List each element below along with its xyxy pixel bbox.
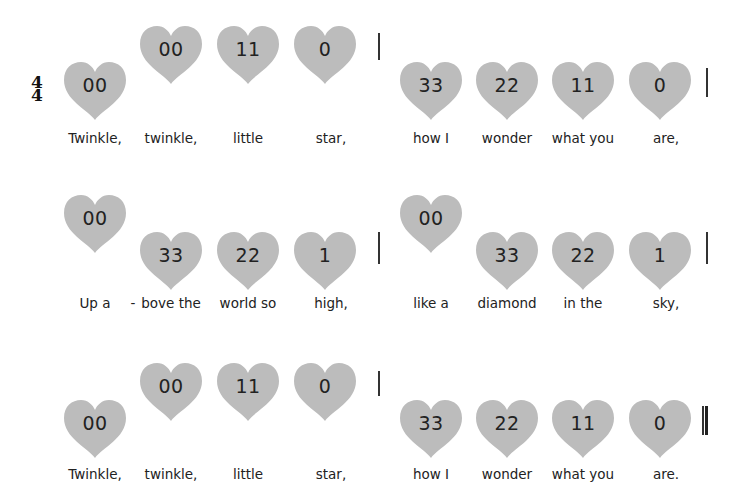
barline: [378, 232, 380, 264]
heart-note: 0: [627, 60, 693, 122]
note-number: 0: [627, 74, 693, 96]
lyric-word: twinkle,: [145, 466, 198, 482]
lyric-word: in the: [564, 295, 603, 311]
lyric-word: Twinkle,: [68, 130, 122, 146]
note-number: 00: [138, 38, 204, 60]
note-number: 00: [62, 412, 128, 434]
barline: [706, 68, 708, 97]
heart-note: 0: [627, 398, 693, 460]
lyric-word: sky,: [653, 295, 680, 311]
note-number: 33: [398, 412, 464, 434]
final-barline-thick: [705, 406, 708, 435]
note-number: 0: [292, 375, 358, 397]
cut-off-text-line: [0, 0, 733, 6]
note-number: 11: [550, 74, 616, 96]
note-number: 22: [550, 244, 616, 266]
heart-note: 33: [474, 230, 540, 292]
lyric-word: how I: [413, 466, 449, 482]
heart-note: 22: [215, 230, 281, 292]
lyric-word: how I: [413, 130, 449, 146]
note-number: 00: [138, 375, 204, 397]
lyric-word: are.: [653, 466, 679, 482]
final-barline-thin: [702, 406, 704, 435]
heart-note: 00: [62, 193, 128, 255]
heart-note: 33: [138, 230, 204, 292]
note-number: 0: [627, 412, 693, 434]
note-number: 22: [474, 74, 540, 96]
note-number: 33: [474, 244, 540, 266]
heart-note: 1: [292, 230, 358, 292]
heart-note: 00: [138, 361, 204, 423]
note-number: 22: [474, 412, 540, 434]
heart-note: 33: [398, 60, 464, 122]
lyric-word: star,: [316, 466, 346, 482]
time-signature: 4 4: [29, 76, 45, 102]
heart-note: 22: [550, 230, 616, 292]
barline: [706, 232, 708, 264]
heart-note: 22: [474, 60, 540, 122]
heart-note: 11: [215, 361, 281, 423]
note-number: 1: [292, 244, 358, 266]
heart-note: 11: [550, 398, 616, 460]
heart-note: 0: [292, 24, 358, 86]
note-number: 11: [215, 38, 281, 60]
note-number: 0: [292, 38, 358, 60]
note-number: 33: [398, 74, 464, 96]
lyric-word: diamond: [477, 295, 536, 311]
note-number: 33: [138, 244, 204, 266]
lyric-word: little: [233, 466, 263, 482]
lyric-word: what you: [552, 466, 614, 482]
lyric-word: bove the: [141, 295, 201, 311]
lyric-word: are,: [653, 130, 679, 146]
lyric-word: what you: [552, 130, 614, 146]
heart-note: 11: [550, 60, 616, 122]
time-signature-bottom: 4: [29, 89, 45, 102]
heart-note: 1: [627, 230, 693, 292]
lyric-word: star,: [316, 130, 346, 146]
lyric-word: like a: [413, 295, 449, 311]
lyric-word: world so: [220, 295, 277, 311]
heart-note: 00: [62, 60, 128, 122]
lyric-word: wonder: [482, 130, 532, 146]
heart-note: 0: [292, 361, 358, 423]
heart-note: 00: [62, 398, 128, 460]
lyric-word: twinkle,: [145, 130, 198, 146]
heart-note: 00: [138, 24, 204, 86]
heart-note: 33: [398, 398, 464, 460]
note-number: 11: [215, 375, 281, 397]
lyric-word: high,: [314, 295, 348, 311]
lyric-word: Twinkle,: [68, 466, 122, 482]
lyric-word: little: [233, 130, 263, 146]
note-number: 1: [627, 244, 693, 266]
lyric-hyphen: -: [131, 295, 136, 311]
heart-note: 22: [474, 398, 540, 460]
heart-note: 11: [215, 24, 281, 86]
lyric-word: Up a: [79, 295, 110, 311]
note-number: 00: [398, 207, 464, 229]
barline: [378, 371, 380, 396]
heart-note: 00: [398, 193, 464, 255]
note-number: 22: [215, 244, 281, 266]
note-number: 11: [550, 412, 616, 434]
lyric-word: wonder: [482, 466, 532, 482]
note-number: 00: [62, 74, 128, 96]
barline: [378, 33, 380, 60]
note-number: 00: [62, 207, 128, 229]
